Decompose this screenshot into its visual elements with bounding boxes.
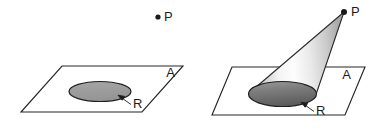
point-p-right-dot xyxy=(341,9,347,15)
region-r-left-arrow xyxy=(118,95,131,104)
region-r-right-label: R xyxy=(316,103,325,118)
region-r-left-label: R xyxy=(133,96,142,111)
point-p-left-group: P xyxy=(155,9,172,24)
panel-right: P A R xyxy=(212,4,365,118)
plane-a-left-label: A xyxy=(166,65,175,80)
point-p-right-label: P xyxy=(351,4,360,19)
region-r-right-arrow xyxy=(301,102,314,111)
figure-container: P A R xyxy=(0,0,385,131)
geometry-figure: P A R xyxy=(0,0,385,131)
panel-left: P A R xyxy=(21,9,183,112)
plane-a-right-label: A xyxy=(342,67,351,82)
point-p-left-label: P xyxy=(164,9,173,24)
point-p-left-dot xyxy=(155,14,160,19)
point-p-right-group: P xyxy=(341,4,360,19)
